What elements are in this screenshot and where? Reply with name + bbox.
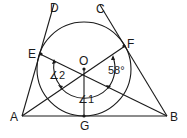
angle-1-label: ∠1 [78, 93, 94, 105]
geometry-diagram: A B C D E F G O ∠2 ∠1 58° [0, 0, 187, 138]
point-g-dot [82, 114, 85, 117]
label-b: B [170, 110, 178, 124]
label-g: G [80, 119, 89, 133]
label-o: O [79, 54, 88, 68]
point-f-dot [122, 44, 125, 47]
angle-2-label: ∠2 [49, 69, 65, 81]
label-e: E [28, 47, 36, 61]
label-a: A [10, 110, 18, 124]
label-d: D [50, 1, 59, 15]
label-c: C [96, 2, 105, 16]
label-f: F [127, 37, 134, 51]
angle-58-label: 58° [108, 64, 125, 76]
line-af [22, 46, 125, 116]
line-ad [22, 4, 54, 116]
point-e-dot [39, 52, 42, 55]
